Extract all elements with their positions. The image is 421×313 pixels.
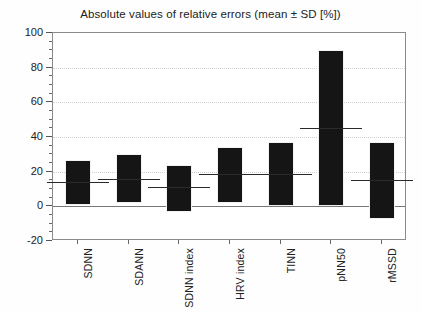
y-axis-label: 100 [25, 26, 43, 38]
x-axis-label: HRV index [234, 248, 246, 300]
mean-marker [300, 128, 362, 129]
x-axis: SDNNSDANNSDNN indexHRV indexTINNpNN50rMS… [52, 240, 406, 313]
y-axis-label: 80 [31, 61, 43, 73]
x-tick [229, 240, 230, 244]
y-axis-label: 0 [37, 199, 43, 211]
x-axis-label: pNN50 [335, 248, 347, 282]
x-tick [280, 240, 281, 244]
x-tick [77, 240, 78, 244]
chart-figure: Absolute values of relative errors (mean… [0, 0, 421, 313]
chart-title: Absolute values of relative errors (mean… [0, 8, 421, 20]
x-axis-label: SDNN index [183, 248, 195, 308]
gridline [53, 68, 405, 69]
x-axis-label: SDNN [82, 248, 94, 279]
x-axis-label: SDANN [133, 248, 145, 286]
y-axis-label: -20 [27, 234, 43, 246]
x-tick [178, 240, 179, 244]
x-axis-label: rMSSD [386, 248, 398, 283]
mean-marker [148, 187, 210, 188]
gridline [53, 102, 405, 103]
mean-marker [98, 179, 160, 180]
y-axis-label: 60 [31, 95, 43, 107]
gridline [53, 137, 405, 138]
zero-baseline [53, 206, 405, 207]
x-tick [381, 240, 382, 244]
plot-area [52, 32, 406, 240]
mean-marker [250, 174, 312, 175]
x-axis-label: TINN [285, 248, 297, 273]
y-axis-label: 20 [31, 165, 43, 177]
mean-marker [47, 182, 109, 183]
y-axis: 100806040200-20 [0, 32, 52, 240]
x-tick [128, 240, 129, 244]
mean-marker [351, 180, 413, 181]
y-axis-label: 40 [31, 130, 43, 142]
x-tick [330, 240, 331, 244]
